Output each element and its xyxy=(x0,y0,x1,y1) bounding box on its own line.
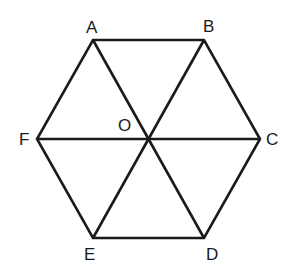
vertex-label-a: A xyxy=(86,19,97,36)
hexagon-diagram: A B C D E F O xyxy=(0,0,291,280)
vertex-label-e: E xyxy=(84,246,95,263)
vertex-label-f: F xyxy=(19,131,29,148)
vertex-label-d: D xyxy=(206,246,218,263)
vertex-label-b: B xyxy=(203,18,214,35)
vertex-label-c: C xyxy=(266,131,278,148)
center-label-o: O xyxy=(118,117,131,134)
hexagon-figure xyxy=(0,0,291,280)
